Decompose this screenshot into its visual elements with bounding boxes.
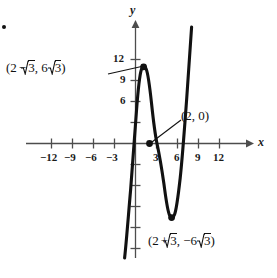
y-tick-label-9: 9 xyxy=(120,74,126,85)
x-tick-label-6: 6 xyxy=(174,152,180,163)
y-tick-label-6: 6 xyxy=(120,95,126,106)
x-tick-label-minus-3: −3 xyxy=(106,152,118,163)
min-text-open: (2 xyxy=(148,233,159,248)
local-minimum-point xyxy=(168,214,175,221)
x-intercept-point xyxy=(146,140,153,147)
y-tick-label-12: 12 xyxy=(113,53,124,64)
cubic-function-plot xyxy=(0,0,277,278)
x-tick-label-minus-12: −12 xyxy=(40,152,57,163)
annotation-text-close: ) xyxy=(61,60,65,75)
x-tick-label-9: 9 xyxy=(195,152,201,163)
x-tick-label-minus-6: −6 xyxy=(85,152,97,163)
x-tick-label-3: 3 xyxy=(153,152,159,163)
local-minimum-annotation: (2+ 3 , −6 3 ) xyxy=(148,233,215,247)
annotation-text-open: (2 xyxy=(6,60,17,75)
x-tick-label-minus-9: −9 xyxy=(64,152,76,163)
annotation-leader-lines xyxy=(108,67,181,144)
x-tick-label-12: 12 xyxy=(213,152,224,163)
min-text-close: ) xyxy=(211,233,215,248)
x-intercept-annotation: (2, 0) xyxy=(181,109,209,122)
radical-sign-icon-3 xyxy=(163,233,171,248)
x-axis-label: x xyxy=(258,136,264,148)
annotation-text-comma: , 6 xyxy=(35,60,48,75)
local-maximum-annotation: (2− 3 , 6 3 ) xyxy=(6,60,66,74)
cubic-curve xyxy=(125,27,192,258)
graph-figure: y x 12 9 6 −12 −9 −6 −3 3 6 9 12 (2− 3 ,… xyxy=(0,0,277,278)
radical-sign-icon-2 xyxy=(48,60,56,75)
min-text-comma: , −6 xyxy=(177,233,197,248)
y-axis-label: y xyxy=(130,4,135,16)
radical-sign-icon xyxy=(21,60,29,75)
radical-sign-icon-4 xyxy=(197,233,205,248)
